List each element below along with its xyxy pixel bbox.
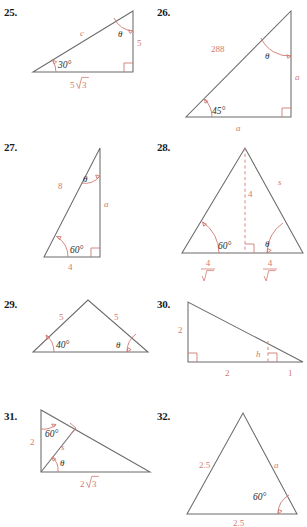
problem-26: 26. 288 a 45° θ a xyxy=(153,0,307,135)
label-angle-40-29: 40° xyxy=(56,340,70,350)
label-base-left-30: 2 xyxy=(225,368,230,378)
label-vertical-leg-30: 2 xyxy=(178,325,183,335)
problem-number-30: 30. xyxy=(157,298,170,310)
label-base-right-30: 1 xyxy=(288,368,293,378)
label-hypotenuse-26: 288 xyxy=(211,44,225,54)
label-angle-60-31: 60° xyxy=(45,429,59,439)
label-right-side-32: a xyxy=(274,460,279,470)
worksheet-page: 25. c 5 30° θ 5 3 26. xyxy=(0,0,307,527)
problem-31: 31. 2 s 60° θ 2 3 xyxy=(0,385,153,527)
label-angle-theta-27: θ xyxy=(83,174,88,184)
label-angle-theta-29: θ xyxy=(116,340,121,350)
label-angle-30-25: 30° xyxy=(57,60,72,70)
label-angle-theta-28: θ xyxy=(265,239,270,249)
diagram-27: 8 a 60° θ 4 xyxy=(0,135,153,277)
diagram-29: 5 5 40° θ xyxy=(0,285,153,385)
label-height-30: h xyxy=(256,349,261,359)
label-base-left-num-28: 4 xyxy=(206,258,211,268)
problem-29: 29. 5 5 40° θ xyxy=(0,285,153,385)
label-cevian-31: s xyxy=(61,442,65,452)
problem-number-32: 32. xyxy=(157,410,170,422)
label-base-value-25: 5 xyxy=(70,80,75,90)
problem-number-28: 28. xyxy=(157,141,170,153)
label-base-radical-31: 3 xyxy=(92,479,97,489)
label-vertical-leg-25: 5 xyxy=(137,38,142,48)
label-vertical-leg-26: a xyxy=(295,72,300,82)
label-altitude-28: 4 xyxy=(248,189,253,199)
label-vertical-leg-31: 2 xyxy=(30,437,35,447)
label-angle-theta-31: θ xyxy=(60,458,65,468)
label-hypotenuse-25: c xyxy=(80,28,84,38)
label-angle-60-28: 60° xyxy=(218,241,232,251)
label-right-side-29: 5 xyxy=(114,312,119,322)
label-angle-60-32: 60° xyxy=(253,492,267,502)
label-base-radical-25: 3 xyxy=(82,80,87,90)
label-left-side-29: 5 xyxy=(59,312,64,322)
problem-number-27: 27. xyxy=(4,141,17,153)
problem-25: 25. c 5 30° θ 5 3 xyxy=(0,0,153,135)
diagram-32: 2.5 a 60° 2.5 xyxy=(153,385,307,527)
label-base-right-num-28: 4 xyxy=(268,258,273,268)
label-right-side-28: s xyxy=(278,177,282,187)
problem-number-31: 31. xyxy=(4,410,17,422)
diagram-26: 288 a 45° θ a xyxy=(153,0,307,135)
label-left-side-32: 2.5 xyxy=(199,460,211,470)
label-base-value-31: 2 xyxy=(80,479,85,489)
problem-28: 28. 4 s 60° θ 4 √3 4 √3 xyxy=(153,135,307,277)
label-base-27: 4 xyxy=(68,262,73,272)
label-angle-theta-25: θ xyxy=(118,29,123,39)
label-angle-60-27: 60° xyxy=(70,245,84,255)
label-base-26: a xyxy=(236,123,241,133)
problem-32: 32. 2.5 a 60° 2.5 xyxy=(153,385,307,527)
diagram-28: 4 s 60° θ 4 √3 4 √3 xyxy=(153,135,307,277)
label-base-32: 2.5 xyxy=(233,518,245,527)
problem-30: 30. 2 2 1 h xyxy=(153,285,307,385)
diagram-30: 2 2 1 h xyxy=(153,285,307,385)
problem-number-26: 26. xyxy=(157,6,170,18)
problem-27: 27. 8 a 60° θ 4 xyxy=(0,135,153,277)
problem-number-25: 25. xyxy=(4,6,17,18)
label-hypotenuse-27: 8 xyxy=(58,181,63,191)
label-vertical-leg-27: a xyxy=(104,199,109,209)
problem-number-29: 29. xyxy=(4,298,17,310)
label-angle-45-26: 45° xyxy=(212,106,226,116)
diagram-31: 2 s 60° θ 2 3 xyxy=(0,385,153,527)
diagram-25: c 5 30° θ 5 3 xyxy=(0,0,153,135)
label-angle-theta-26: θ xyxy=(265,51,270,61)
